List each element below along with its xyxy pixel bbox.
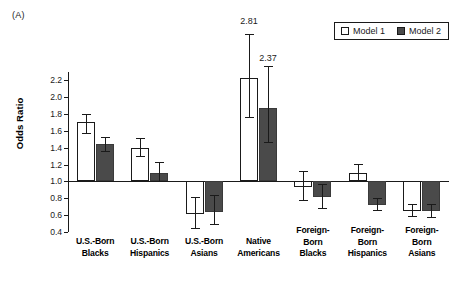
bar-model-1 [131, 72, 149, 232]
error-bar-cap-upper [299, 171, 308, 172]
error-bar-cap-lower [210, 224, 219, 225]
error-bar-cap-lower [155, 181, 164, 182]
error-bar-cap-lower [318, 208, 327, 209]
bar-group [177, 72, 231, 232]
error-bar-cap-upper [318, 184, 327, 185]
legend-item-model-1: Model 1 [341, 26, 385, 36]
bar-model-1 [186, 72, 204, 232]
legend-swatch-model-1-icon [341, 27, 349, 35]
bar-group [395, 72, 449, 232]
legend-swatch-model-2-icon [397, 27, 405, 35]
error-bar-cap-upper [210, 195, 219, 196]
error-bar-cap-upper [82, 114, 91, 115]
error-bar-cap-lower [264, 142, 273, 143]
bar-model-2 [96, 72, 114, 232]
bar-group [231, 72, 285, 232]
error-bar-line [431, 204, 432, 217]
bar-model-1 [77, 72, 95, 232]
error-bar-line [105, 137, 106, 151]
legend-item-model-2: Model 2 [397, 26, 441, 36]
y-tick-label: 1.0 [50, 176, 62, 186]
error-bar-line [214, 195, 215, 224]
error-bar-cap-lower [191, 228, 200, 229]
error-bar-cap-lower [82, 133, 91, 134]
error-bar-cap-upper [408, 204, 417, 205]
error-bar-line [412, 204, 413, 216]
error-bar-cap-lower [136, 156, 145, 157]
error-bar-line [268, 66, 269, 142]
y-tick-label: 2.2 [50, 75, 62, 85]
error-bar-line [377, 198, 378, 210]
y-tick-label: 1.8 [50, 109, 62, 119]
error-bar-cap-lower [373, 210, 382, 211]
bar-group [340, 72, 394, 232]
error-bar-line [86, 114, 87, 133]
error-bar-line [303, 171, 304, 200]
bar-model-1 [403, 72, 421, 232]
error-bar-line [249, 34, 250, 117]
y-tick-label: 2.0 [50, 92, 62, 102]
bar-model-2 [150, 72, 168, 232]
x-axis-category-labels: U.S.-BornBlacksU.S.-BornHispanicsU.S.-Bo… [68, 236, 449, 290]
error-bar-line [358, 164, 359, 182]
legend-label-model-1: Model 1 [353, 26, 385, 36]
error-bar-line [140, 138, 141, 157]
error-bar-cap-upper [264, 66, 273, 67]
error-bar-cap-upper [136, 138, 145, 139]
bar-model-2 [259, 72, 277, 232]
bar-group [122, 72, 176, 232]
bar-model-2 [368, 72, 386, 232]
x-axis-label-line: Born [390, 237, 454, 249]
error-bar-cap-upper [354, 164, 363, 165]
y-tick-label: 0.4 [50, 227, 62, 237]
panel-label: (A) [12, 10, 25, 20]
x-axis-category-label: Foreign-BornAsians [390, 225, 454, 260]
x-axis-label-line: Foreign- [390, 225, 454, 237]
value-annotation: 2.37 [259, 53, 277, 63]
x-axis-label-line: Asians [390, 248, 454, 260]
value-annotation: 2.81 [240, 16, 258, 26]
error-bar-cap-lower [354, 181, 363, 182]
legend: Model 1 Model 2 [334, 22, 449, 40]
y-axis-title: Odds Ratio [14, 89, 25, 159]
error-bar-cap-upper [245, 34, 254, 35]
y-tick-label: 0.6 [50, 210, 62, 220]
error-bar-cap-upper [155, 162, 164, 163]
error-bar-cap-lower [299, 200, 308, 201]
error-bar-cap-upper [101, 137, 110, 138]
y-tick-label: 0.8 [50, 193, 62, 203]
error-bar-cap-upper [373, 198, 382, 199]
bar-model-1 [294, 72, 312, 232]
bar-model-2 [313, 72, 331, 232]
error-bar-cap-upper [427, 204, 436, 205]
error-bar-cap-lower [408, 216, 417, 217]
y-tick-label: 1.4 [50, 143, 62, 153]
legend-label-model-2: Model 2 [409, 26, 441, 36]
bar-model-2 [205, 72, 223, 232]
bar-model-1 [349, 72, 367, 232]
error-bar-cap-lower [427, 217, 436, 218]
y-tick-label: 1.6 [50, 126, 62, 136]
bar-model-1 [240, 72, 258, 232]
figure-panel-a: (A) Odds Ratio Model 1 Model 2 0.40.60.8… [0, 0, 457, 290]
y-tick-label: 1.2 [50, 160, 62, 170]
bar-group [286, 72, 340, 232]
plot-area: 0.40.60.81.01.21.41.61.82.02.2 2.812.37 [68, 72, 449, 232]
error-bar-cap-upper [191, 197, 200, 198]
error-bar-line [159, 162, 160, 181]
bar-model-2 [422, 72, 440, 232]
error-bar-cap-lower [245, 117, 254, 118]
error-bar-line [322, 184, 323, 208]
bar-group [68, 72, 122, 232]
y-tick [64, 232, 68, 233]
error-bar-line [195, 197, 196, 227]
error-bar-cap-lower [101, 151, 110, 152]
